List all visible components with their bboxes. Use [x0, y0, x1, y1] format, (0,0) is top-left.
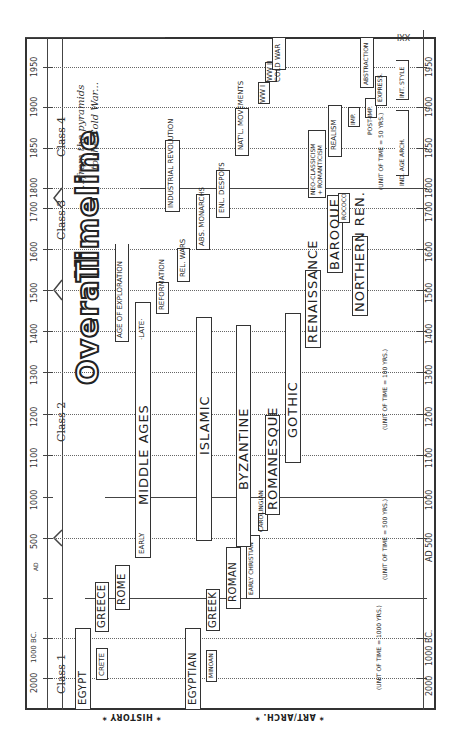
label-middle-ages: MIDDLE AGES	[137, 404, 150, 505]
label-int-style: INT. STYLE	[399, 67, 405, 98]
right-tick-label: 1850	[426, 138, 434, 158]
tick-label: 1300	[31, 365, 39, 385]
subtitle-line-2: to the Cold War...	[90, 82, 100, 170]
section-history: * HISTORY *	[102, 712, 161, 721]
right-tick-label: 2000	[426, 676, 434, 696]
class-3-label: Class 3	[56, 200, 67, 240]
label-enl-despots: ENL. DESPOTS	[219, 162, 226, 213]
tick-label: 1900	[31, 97, 39, 117]
label-industrial-revolution: INDUSTRIAL REVOLUTION	[168, 118, 175, 208]
label-romanticism: + ROMANTICISM	[317, 145, 323, 195]
label-late: ·LATE·	[139, 319, 146, 340]
label-early: EARLY	[139, 533, 146, 554]
right-tick-label: 1000	[426, 490, 434, 510]
tick-label: 1100	[31, 448, 39, 468]
label-carolingian: CAROLINGIAN	[258, 490, 264, 532]
label-wwi: WW I	[260, 85, 267, 103]
right-tick-label: 1400	[426, 324, 434, 344]
label-rel-wars: REL. WARS	[180, 239, 187, 277]
section-art-arch: * ART/ARCH. *	[255, 712, 324, 721]
label-islamic: ISLAMIC	[198, 395, 211, 455]
label-imp: IMP.	[350, 113, 356, 125]
label-greek: GREEK	[208, 592, 218, 628]
separator-ad1000	[105, 497, 423, 498]
right-tick-label: 1200	[426, 407, 434, 427]
class-2-label: Class 2	[56, 402, 67, 442]
tick-label: 1000 BC.	[31, 631, 38, 663]
label-realism: REALISM	[331, 119, 338, 150]
tick-label: 2000	[31, 673, 39, 693]
class-1-label: Class 1	[56, 654, 67, 694]
label-natl-movements: NAT'L. MOVEMENTS	[238, 81, 245, 150]
label-rococo: ROCOCO	[341, 193, 347, 220]
right-tick-label: 1700	[426, 202, 434, 222]
tick-label: 1400	[31, 324, 39, 344]
right-tick-label: 1900	[426, 97, 434, 117]
label-post-imp: POST-IMP.	[367, 106, 373, 135]
label-age-of-exploration: AGE OF EXPLORATION	[117, 261, 124, 338]
right-axis-line	[423, 30, 424, 710]
subtitle-line-1: ...from the pyramids	[76, 85, 86, 188]
tick-label: 500	[31, 534, 39, 549]
right-tick-label: AD 500	[426, 533, 434, 562]
axis-end-label: XXI	[397, 32, 410, 41]
tick-label: 1850	[31, 138, 39, 158]
right-tick-label: 1300	[426, 365, 434, 385]
label-abs-monarchs: ABS. MONARCHS	[199, 187, 206, 246]
right-tick-label: 1500	[426, 283, 434, 303]
label-romanesque: ROMANESQUE	[266, 406, 279, 510]
label-crete: CRETE	[99, 653, 106, 676]
tick-label: 1200	[31, 407, 39, 427]
label-egypt: EGYPT	[78, 671, 88, 705]
label-byzantine: BYZANTINE	[237, 408, 250, 490]
unit-note-50: (UNIT OF TIME = 50 YRS.)	[378, 113, 384, 190]
tick-label: 1700	[31, 202, 39, 222]
label-express: EXPRESS.	[377, 73, 383, 102]
label-rome: ROME	[117, 573, 127, 605]
right-tick-label: 1950	[426, 57, 434, 77]
class-4-label: Class 4	[56, 117, 67, 157]
label-roman: ROMAN	[228, 562, 238, 602]
top-frame-line	[25, 37, 165, 38]
tick-label: 1500	[31, 283, 39, 303]
label-early-christian: EARLY CHRISTIAN	[248, 542, 254, 595]
right-tick-label: 1000 BC.	[426, 630, 434, 666]
label-renaissance: RENAISSANCE	[306, 240, 319, 343]
tick-label: AD	[33, 562, 39, 571]
label-reformation: REFORMATION	[159, 259, 166, 310]
right-tick-label: 1100	[426, 448, 434, 468]
label-gothic: GOTHIC	[286, 381, 299, 438]
unit-note-1000: (UNIT OF TIME = 1000 YRS.)	[376, 605, 382, 690]
label-ind-age-arch: IND. AGE ARCH.	[399, 138, 405, 186]
unit-note-100: (UNIT OF TIME = 100 YRS.)	[382, 349, 388, 430]
unit-note-500: (UNIT OF TIME = 500 YRS.)	[382, 499, 388, 580]
tick-label: 1000	[31, 490, 39, 510]
tick-label: 1600	[31, 242, 39, 262]
right-tick-label: 1800	[426, 178, 434, 198]
label-abstraction: ABSTRACTION	[363, 43, 369, 85]
label-minoan: MINOAN	[208, 653, 214, 678]
tick-label: 1950	[31, 57, 39, 77]
label-northern-ren: NORTHERN REN.	[353, 191, 366, 312]
label-greece: GREECE	[97, 584, 107, 628]
right-tick-label: 1600	[426, 242, 434, 262]
label-cold-war: COLD WAR	[275, 44, 282, 82]
label-egyptian: EGYPTIAN	[188, 652, 198, 705]
tick-label: 1800	[31, 178, 39, 198]
